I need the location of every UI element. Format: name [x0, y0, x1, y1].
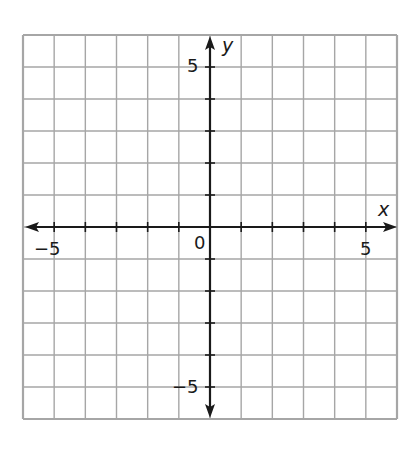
origin-label: 0 — [194, 232, 205, 253]
x-tick-label-neg5: −5 — [34, 238, 61, 259]
x-tick-label-pos5: 5 — [360, 238, 371, 259]
x-axis-label: x — [377, 198, 390, 220]
axes — [25, 36, 397, 418]
y-axis-label: y — [221, 34, 234, 56]
y-tick-label-neg5: −5 — [172, 376, 199, 397]
y-tick-label-pos5: 5 — [187, 55, 198, 76]
coordinate-plane: x y 0 −5 5 5 −5 — [0, 0, 419, 452]
